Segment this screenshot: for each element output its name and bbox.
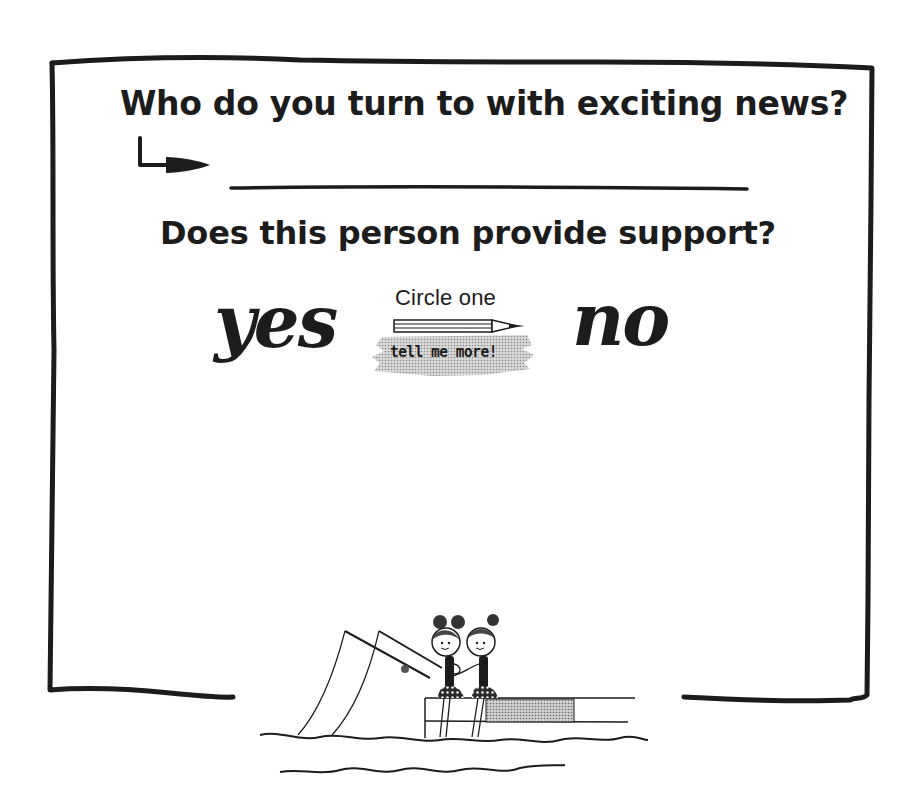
answer-blank-line[interactable] xyxy=(229,185,749,191)
option-yes[interactable]: yes xyxy=(214,282,336,362)
fishing-girls-illustration xyxy=(240,600,660,800)
bent-arrow-right-icon xyxy=(130,135,220,180)
question-provide-support: Does this person provide support? xyxy=(160,214,800,252)
tell-me-more-link[interactable]: tell me more! xyxy=(390,342,497,361)
pencil-icon xyxy=(393,318,527,334)
option-no[interactable]: no xyxy=(572,280,668,360)
question-exciting-news: Who do you turn to with exciting news? xyxy=(120,84,820,123)
circle-one-instruction: Circle one xyxy=(395,285,496,311)
